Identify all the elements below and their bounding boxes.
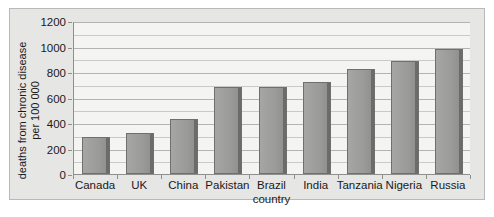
y-tick-mark xyxy=(68,175,72,176)
bar-side-shadow xyxy=(459,50,462,173)
bar-face xyxy=(83,138,106,173)
bar-side-shadow xyxy=(283,88,286,173)
y-tick-label: 800 xyxy=(47,67,66,79)
y-tick-mark xyxy=(68,48,72,49)
bar-uk xyxy=(126,133,154,174)
x-tick-mark xyxy=(470,175,471,179)
y-axis-tick-labels: 020040060080010001200 xyxy=(8,22,70,175)
x-tick-label-brazil: Brazil xyxy=(257,179,286,191)
x-tick-label-nigeria: Nigeria xyxy=(386,179,422,191)
y-tick-mark xyxy=(68,99,72,100)
bar-face xyxy=(436,50,459,173)
gridline-major xyxy=(74,48,470,49)
bar-tanzania xyxy=(347,69,375,174)
y-tick-mark xyxy=(68,73,72,74)
chart-figure: deaths from chronic disease per 100 000 … xyxy=(0,0,494,217)
x-tick-label-canada: Canada xyxy=(75,179,115,191)
x-tick-mark xyxy=(426,175,427,179)
x-tick-mark xyxy=(161,175,162,179)
bar-side-shadow xyxy=(150,134,153,173)
bar-nigeria xyxy=(391,61,419,174)
bar-face xyxy=(348,70,371,173)
bar-side-shadow xyxy=(371,70,374,173)
x-tick-label-pakistan: Pakistan xyxy=(205,179,249,191)
y-tick-label: 600 xyxy=(47,93,66,105)
x-tick-mark xyxy=(117,175,118,179)
bar-face xyxy=(127,134,150,173)
bar-side-shadow xyxy=(194,120,197,173)
x-axis-title: country xyxy=(253,193,291,205)
plot-inner xyxy=(74,22,470,174)
bar-china xyxy=(170,119,198,174)
gridline-minor xyxy=(74,35,470,36)
x-tick-label-uk: UK xyxy=(131,179,147,191)
bar-india xyxy=(303,82,331,174)
gridline-major xyxy=(74,22,470,23)
bar-side-shadow xyxy=(238,88,241,173)
bar-brazil xyxy=(259,87,287,174)
y-tick-mark xyxy=(68,22,72,23)
y-tick-mark xyxy=(68,150,72,151)
bar-face xyxy=(260,88,283,173)
y-tick-label: 400 xyxy=(47,118,66,130)
x-tick-label-india: India xyxy=(303,179,328,191)
plot-area xyxy=(73,22,470,175)
y-tick-mark xyxy=(68,124,72,125)
bar-russia xyxy=(435,49,463,174)
bar-canada xyxy=(82,137,110,174)
bar-face xyxy=(171,120,194,173)
bar-side-shadow xyxy=(327,83,330,173)
y-tick-label: 1000 xyxy=(40,42,66,54)
x-tick-label-russia: Russia xyxy=(430,179,465,191)
x-tick-label-tanzania: Tanzania xyxy=(337,179,383,191)
bar-face xyxy=(392,62,415,173)
y-tick-label: 1200 xyxy=(40,16,66,28)
bar-side-shadow xyxy=(106,138,109,173)
bar-face xyxy=(304,83,327,173)
x-tick-mark xyxy=(294,175,295,179)
bar-pakistan xyxy=(214,87,242,174)
y-tick-label: 200 xyxy=(47,144,66,156)
x-tick-label-china: China xyxy=(168,179,198,191)
bar-side-shadow xyxy=(415,62,418,173)
y-tick-label: 0 xyxy=(60,169,66,181)
x-tick-mark xyxy=(73,175,74,179)
bar-face xyxy=(215,88,238,173)
